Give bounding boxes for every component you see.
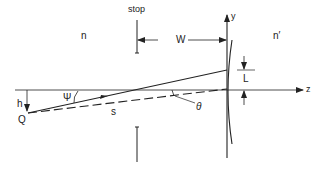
s-label: s [111, 107, 116, 117]
theta-label: θ [196, 102, 201, 112]
medium-n-label: n [81, 31, 87, 41]
psi-angle-arc [74, 91, 78, 103]
theta-leader [175, 96, 195, 103]
optics-diagram: stop n n′ W y z L h Ψ Q s θ [0, 0, 323, 169]
l-label: L [243, 74, 249, 84]
z-axis-label: z [306, 85, 311, 94]
diagram-graphics [0, 0, 323, 169]
h-label: h [17, 99, 23, 109]
refracting-surface [228, 40, 232, 144]
stop-label: stop [128, 5, 145, 14]
q-point-label: Q [18, 115, 26, 125]
y-axis-label: y [231, 12, 236, 21]
w-label: W [176, 35, 185, 45]
psi-label: Ψ [63, 93, 71, 103]
medium-n-prime-label: n′ [273, 31, 280, 41]
